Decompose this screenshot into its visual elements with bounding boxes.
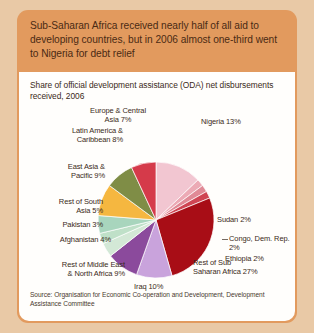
slice-label-rest-of-sub-saharan-africa: Rest of Sub Saharan Africa 27% [193,258,285,276]
slice-label-latin-america: Latin America & Caribbean 8% [25,126,123,144]
slice-label-europe-central-asia: Europe & Central Asia 7% [75,106,161,124]
slice-label-rest-of-middle-east: Rest of Middle East & North Africa 9% [23,260,125,278]
infographic-panel: Sub-Saharan Africa received nearly half … [17,10,297,323]
source-note: Source: Organisation for Economic Co-ope… [30,290,282,308]
slice-label-pakistan: Pakistan 3% [23,220,103,229]
slice-label-sudan: Sudan 2% [217,215,291,224]
slice-label-nigeria: Nigeria 13% [201,117,281,126]
slice-label-rest-of-south-asia: Rest of South Asia 5% [23,197,103,215]
headline-banner: Sub-Saharan Africa received nearly half … [17,10,297,70]
chart-card: Share of official development assistance… [19,72,295,321]
slice-label-east-asia-pacific: East Asia & Pacific 9% [25,162,105,180]
slice-label-afghanistan: Afghanistan 4% [23,235,111,244]
pie-chart: Europe & Central Asia 7% Latin America &… [19,72,295,321]
slice-label-congo-dem-rep: Congo, Dem. Rep. 2% [229,234,295,252]
